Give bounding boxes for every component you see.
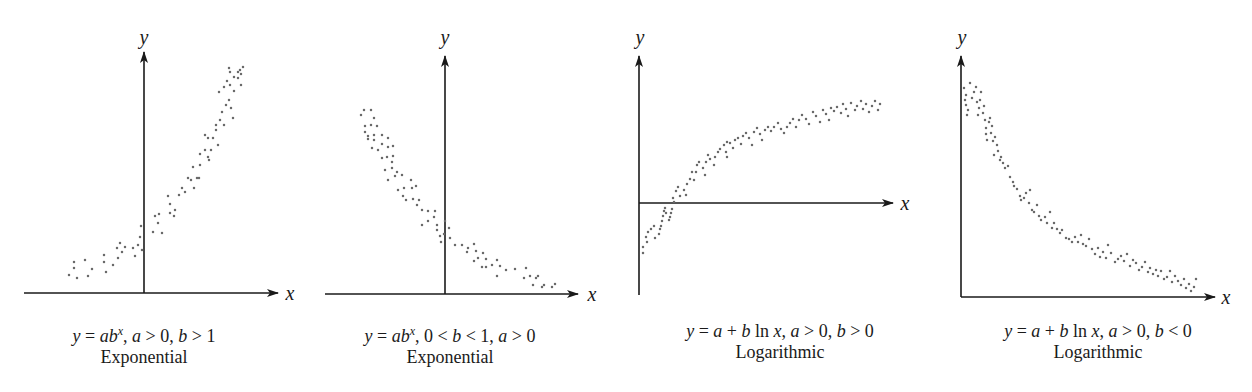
data-point	[537, 275, 540, 278]
data-point	[734, 139, 737, 142]
data-point	[812, 111, 815, 114]
data-point	[397, 189, 400, 192]
data-point	[964, 99, 967, 102]
data-point	[695, 171, 698, 174]
data-point	[679, 195, 682, 198]
data-point	[707, 154, 710, 157]
data-point	[767, 126, 770, 129]
data-point	[1166, 276, 1169, 279]
data-point	[1195, 278, 1198, 281]
equation-label: y = a + b ln x, a > 0, b > 0	[640, 321, 920, 342]
data-point	[485, 266, 488, 269]
data-point	[1009, 176, 1012, 179]
data-point	[449, 237, 452, 240]
data-point	[178, 194, 181, 197]
data-point	[204, 134, 207, 137]
data-point	[363, 109, 366, 112]
data-point	[410, 179, 413, 182]
data-point	[1077, 241, 1080, 244]
data-point	[1174, 275, 1177, 278]
y-axis-label: y	[439, 26, 450, 49]
data-point	[702, 167, 705, 170]
data-point	[436, 224, 439, 227]
data-point	[73, 261, 76, 264]
data-point	[154, 215, 157, 218]
data-point	[825, 113, 828, 116]
data-point	[514, 268, 517, 271]
data-point	[473, 260, 476, 263]
data-point	[391, 161, 394, 164]
data-point	[184, 191, 187, 194]
data-point	[777, 122, 780, 125]
data-point	[505, 269, 508, 272]
data-point	[418, 199, 421, 202]
data-point	[454, 244, 457, 247]
data-point	[693, 179, 696, 182]
data-point	[661, 220, 664, 223]
data-point	[847, 115, 850, 118]
data-point	[993, 154, 996, 157]
data-point	[1023, 197, 1026, 200]
data-point	[653, 225, 656, 228]
data-point	[242, 66, 245, 69]
data-point	[761, 139, 764, 142]
data-point	[370, 124, 373, 127]
data-point	[672, 197, 675, 200]
data-point	[1114, 261, 1117, 264]
data-point	[963, 87, 966, 90]
data-point	[1157, 275, 1160, 278]
data-point	[985, 127, 988, 130]
data-point	[801, 114, 804, 117]
data-point	[529, 275, 532, 278]
panel-logarithmic-increasing: xy	[634, 26, 910, 295]
model-name-label: Logarithmic	[640, 342, 920, 363]
data-point	[499, 265, 502, 268]
data-point	[392, 145, 395, 148]
data-point	[822, 109, 825, 112]
data-point	[173, 215, 176, 218]
data-point	[975, 86, 978, 89]
data-point	[854, 109, 857, 112]
data-point	[759, 133, 762, 136]
data-point	[1147, 271, 1150, 274]
data-point	[134, 255, 137, 258]
data-point	[525, 267, 528, 270]
data-point	[532, 284, 535, 287]
data-point	[997, 150, 1000, 153]
data-point	[675, 190, 678, 193]
data-point	[1110, 252, 1113, 255]
data-point	[989, 117, 992, 120]
model-name-label: Logarithmic	[958, 342, 1238, 363]
data-point	[1126, 253, 1129, 256]
data-point	[1152, 273, 1155, 276]
data-point	[984, 119, 987, 122]
data-point	[840, 112, 843, 115]
data-point	[112, 264, 115, 267]
data-point	[795, 126, 798, 129]
data-point	[696, 164, 699, 167]
data-point	[1123, 260, 1126, 263]
data-point	[709, 158, 712, 161]
data-point	[387, 179, 390, 182]
caption-exponential-growth: y = abx, a > 0, b > 1 Exponential	[40, 321, 248, 368]
data-point	[764, 129, 767, 132]
data-point	[683, 189, 686, 192]
data-point	[116, 247, 119, 250]
data-point	[737, 137, 740, 140]
data-point	[403, 187, 406, 190]
data-point	[373, 117, 376, 120]
data-point	[1056, 228, 1059, 231]
data-point	[798, 119, 801, 122]
data-point	[1074, 236, 1077, 239]
data-point	[140, 225, 143, 228]
data-point	[461, 244, 464, 247]
data-point	[792, 118, 795, 121]
data-point	[1183, 278, 1186, 281]
data-point	[381, 157, 384, 160]
data-point	[650, 228, 653, 231]
data-point	[976, 101, 979, 104]
data-point	[1132, 259, 1135, 262]
data-point	[1038, 215, 1041, 218]
data-point	[440, 241, 443, 244]
data-point	[192, 166, 195, 169]
